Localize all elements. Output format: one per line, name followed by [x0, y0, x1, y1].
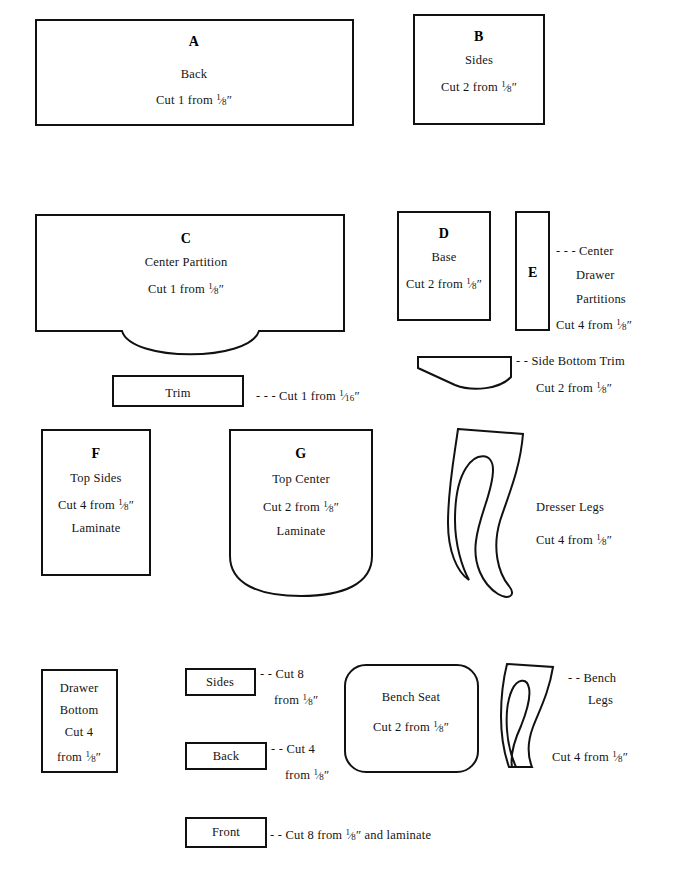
drawer-sides-cut-line2: from: [274, 693, 302, 707]
part-f-name: Top Sides: [70, 466, 121, 490]
part-b-name: Sides: [465, 48, 493, 72]
bench-seat-thickness-fraction: 1⁄8: [433, 712, 443, 741]
dresser-legs-thickness-fraction: 1⁄8: [596, 525, 606, 554]
part-e-name-line1: Center: [579, 244, 614, 258]
part-g-thickness-denominator: 8: [329, 504, 334, 514]
bench-seat-thickness-denominator: 8: [439, 724, 444, 734]
drawer-back-callout-line1: - - Cut 4: [271, 737, 315, 761]
side-bottom-trim-thickness-denominator: 8: [602, 385, 607, 395]
part-c-inch-mark: ″: [219, 282, 224, 296]
part-c-letter: C: [181, 227, 192, 251]
part-g-name: Top Center: [272, 467, 330, 491]
drawer-bottom-cut-text: from: [57, 750, 85, 764]
drawer-sides-callout-line2: from 1⁄8″: [274, 685, 318, 714]
part-a-thickness-denominator: 8: [222, 97, 227, 107]
part-f-letter: F: [91, 442, 100, 466]
part-b-cut: Cut 2 from 1⁄8″: [441, 72, 517, 101]
dresser-legs-cut-text: Cut 4 from: [536, 533, 596, 547]
part-g-inch-mark: ″: [334, 500, 339, 514]
side-bottom-trim-name: Side Bottom Trim: [531, 354, 625, 368]
bench-seat-name: Bench Seat: [382, 685, 441, 709]
bench-legs-cut: Cut 4 from 1⁄8″: [552, 742, 628, 771]
drawer-front-thickness-fraction: 1⁄8: [346, 820, 356, 849]
part-c-cut-text: Cut 1 from: [148, 282, 208, 296]
part-f-inch-mark: ″: [129, 498, 134, 512]
part-c-thickness-denominator: 8: [214, 286, 219, 296]
trim-callout: - - - Cut 1 from 1⁄16″: [256, 381, 360, 410]
part-c-thickness-fraction: 1⁄8: [208, 274, 218, 303]
drawer-bottom-cut-line1: Cut 4: [65, 720, 93, 744]
part-e-inch-mark: ″: [627, 318, 632, 332]
drawer-bottom-thickness-denominator: 8: [91, 754, 96, 764]
trim-cut-text: Cut 1 from: [279, 389, 339, 403]
part-d-cut: Cut 2 from 1⁄8″: [406, 269, 482, 298]
part-d-thickness-fraction: 1⁄8: [466, 269, 476, 298]
drawer-bottom-thickness-fraction: 1⁄8: [85, 742, 95, 771]
part-e-cut-text: Cut 4 from: [556, 318, 616, 332]
bench-seat-cut: Cut 2 from 1⁄8″: [373, 712, 449, 741]
side-bottom-trim-outline: [418, 357, 511, 389]
bench-legs-inch-mark: ″: [623, 750, 628, 764]
drawer-bottom-inch-mark: ″: [96, 750, 101, 764]
drawer-bottom-cut-line2: from 1⁄8″: [57, 742, 101, 771]
part-a-name: Back: [181, 62, 207, 86]
bench-legs-leader-dashes: - -: [568, 671, 583, 685]
drawer-front-leader-dashes: - -: [270, 828, 285, 842]
part-e-thickness-denominator: 8: [622, 322, 627, 332]
drawer-sides-name: Sides: [206, 670, 234, 694]
bench-legs-name-line2: Legs: [588, 688, 613, 712]
trim-inch-mark: ″: [354, 389, 359, 403]
side-bottom-trim-leader-dashes: - -: [516, 354, 531, 368]
part-g-cut-text: Cut 2 from: [263, 500, 323, 514]
dresser-legs-name: Dresser Legs: [536, 495, 604, 519]
part-b-letter: B: [474, 25, 484, 49]
bench-legs-callout-line1: - - Bench: [568, 666, 616, 690]
part-g-thickness-fraction: 1⁄8: [323, 492, 333, 521]
bench-leg-outline: [501, 664, 553, 767]
bench-legs-thickness-fraction: 1⁄8: [612, 742, 622, 771]
part-a-thickness-fraction: 1⁄8: [216, 85, 226, 114]
dresser-legs-thickness-denominator: 8: [602, 537, 607, 547]
drawer-back-inch-mark: ″: [324, 768, 329, 782]
part-f-extra: Laminate: [72, 516, 121, 540]
part-b-inch-mark: ″: [512, 80, 517, 94]
drawer-sides-leader-dashes: - -: [260, 667, 275, 681]
side-bottom-trim-cut: Cut 2 from 1⁄8″: [536, 373, 612, 402]
drawer-bottom-name-line1: Drawer: [60, 676, 99, 700]
drawer-bottom-name-line2: Bottom: [60, 698, 99, 722]
side-bottom-trim-thickness-fraction: 1⁄8: [596, 373, 606, 402]
part-f-cut-text: Cut 4 from: [58, 498, 118, 512]
bench-legs-name-line1: Bench: [583, 671, 616, 685]
side-bottom-trim-cut-text: Cut 2 from: [536, 381, 596, 395]
drawer-back-leader-dashes: - -: [271, 742, 286, 756]
drawer-front-cut-post: and laminate: [361, 828, 431, 842]
dresser-legs-cut: Cut 4 from 1⁄8″: [536, 525, 612, 554]
drawer-sides-cut-line1: Cut 8: [275, 667, 303, 681]
drawer-back-name: Back: [213, 744, 239, 768]
drawer-sides-thickness-fraction: 1⁄8: [302, 685, 312, 714]
drawer-back-callout-line2: from 1⁄8″: [285, 760, 329, 789]
part-b-thickness-denominator: 8: [507, 84, 512, 94]
part-g-letter: G: [295, 442, 306, 466]
drawer-front-thickness-denominator: 8: [351, 832, 356, 842]
trim-leader-dashes: - - -: [256, 389, 279, 403]
drawer-sides-inch-mark: ″: [313, 693, 318, 707]
drawer-sides-thickness-denominator: 8: [308, 697, 313, 707]
part-e-leader-dashes: - - -: [556, 244, 579, 258]
trim-name: Trim: [165, 381, 190, 405]
part-f-thickness-denominator: 8: [124, 502, 129, 512]
part-a-cut-text: Cut 1 from: [156, 93, 216, 107]
cutting-pattern-sheet: A Back Cut 1 from 1⁄8″ B Sides Cut 2 fro…: [0, 0, 676, 882]
part-d-name: Base: [431, 245, 456, 269]
side-bottom-trim-inch-mark: ″: [607, 381, 612, 395]
bench-seat-cut-text: Cut 2 from: [373, 720, 433, 734]
drawer-front-cut-pre: Cut 8 from: [285, 828, 345, 842]
trim-thickness-denominator: 16: [345, 393, 354, 403]
part-d-inch-mark: ″: [477, 277, 482, 291]
part-e-callout-line1: - - - Center: [556, 239, 614, 263]
part-a-cut: Cut 1 from 1⁄8″: [156, 85, 232, 114]
part-e-cut: Cut 4 from 1⁄8″: [556, 310, 632, 339]
drawer-back-thickness-denominator: 8: [319, 772, 324, 782]
part-g-cut: Cut 2 from 1⁄8″: [263, 492, 339, 521]
drawer-sides-callout-line1: - - Cut 8: [260, 662, 304, 686]
